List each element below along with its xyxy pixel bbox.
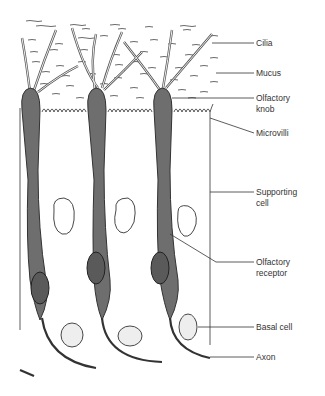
olfactory-epithelium-diagram xyxy=(0,0,325,396)
label-olfactory-receptor: Olfactory xyxy=(256,257,290,267)
label-olfactory-knob-2: knob xyxy=(256,104,274,114)
label-cilia: Cilia xyxy=(256,38,273,48)
supporting-cell-nuclei xyxy=(54,198,197,236)
microvilli xyxy=(42,104,213,112)
label-olfactory-receptor-2: receptor xyxy=(256,268,287,278)
basal-cells xyxy=(61,314,197,347)
label-mucus: Mucus xyxy=(256,68,281,78)
label-microvilli: Microvilli xyxy=(256,128,289,138)
label-basal-cell: Basal cell xyxy=(256,322,292,332)
label-axon: Axon xyxy=(256,352,275,362)
label-olfactory-knob: Olfactory xyxy=(256,93,290,103)
label-supporting-cell: Supporting xyxy=(256,187,297,197)
label-supporting-cell-2: cell xyxy=(256,198,269,208)
leader-lines xyxy=(170,43,254,357)
